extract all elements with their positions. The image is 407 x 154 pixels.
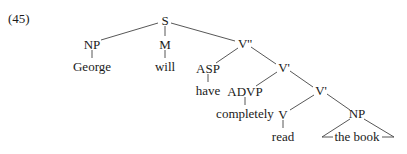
leaf-George: George	[73, 59, 111, 74]
node-M: M	[159, 37, 171, 52]
leaf-will: will	[155, 59, 176, 74]
edge-V1b-V	[290, 95, 314, 110]
edge-V1b-NP	[327, 94, 350, 110]
node-ADVP: ADVP	[227, 84, 262, 99]
leaf-the-book: the book	[334, 129, 380, 144]
leaf-completely: completely	[216, 106, 274, 121]
node-V-bar-upper: V'	[278, 60, 290, 75]
leaf-have: have	[196, 83, 221, 98]
leaf-read: read	[272, 129, 295, 144]
edge-V2-V1a	[251, 47, 276, 64]
edge-S-V2	[171, 23, 235, 41]
edge-S-NP	[101, 23, 158, 40]
node-ASP: ASP	[196, 61, 220, 76]
node-S: S	[161, 13, 168, 28]
node-V-bar-lower: V'	[315, 83, 327, 98]
syntax-tree-diagram: (45) S NP George M will V'' ASP have V' …	[0, 0, 407, 154]
edge-V1a-V1b	[290, 71, 313, 87]
node-NP-object: NP	[349, 106, 366, 121]
example-number: (45)	[8, 11, 30, 26]
node-NP-subject: NP	[84, 37, 101, 52]
node-V: V	[278, 107, 288, 122]
node-V-double-bar: V''	[238, 36, 252, 51]
